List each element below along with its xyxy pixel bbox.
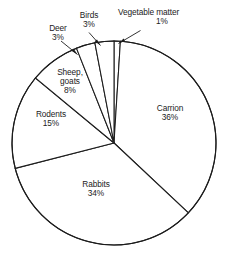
- slice-label-carrion: Carrion 36%: [144, 104, 196, 122]
- slice-label-rodents: Rodents 15%: [24, 110, 78, 128]
- slice-label-value: 1%: [118, 17, 206, 26]
- pie-chart-canvas: [0, 0, 232, 261]
- pie-wedge-group: [12, 41, 216, 245]
- slice-label-value: 8%: [47, 86, 93, 95]
- slice-label-rabbits: Rabbits 34%: [66, 180, 126, 198]
- slice-label-name: Vegetable matter: [118, 8, 218, 17]
- pie-chart-figure: Vegetable matter 1% Birds 3% Deer 3% She…: [0, 0, 232, 261]
- slice-label-deer: Deer 3%: [38, 24, 78, 42]
- slice-label-vegetable-matter: Vegetable matter 1%: [118, 8, 218, 26]
- slice-label-value: 3%: [38, 33, 78, 42]
- slice-label-value: 15%: [24, 119, 78, 128]
- slice-label-value: 34%: [66, 189, 126, 198]
- slice-label-sheep-goats: Sheep, goats 8%: [47, 68, 93, 95]
- slice-label-value: 36%: [144, 113, 196, 122]
